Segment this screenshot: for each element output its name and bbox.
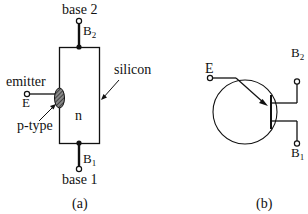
label-emitter: emitter (6, 74, 46, 89)
silicon-pointer (103, 80, 119, 98)
label-b1: B1 (291, 145, 304, 162)
label-b1: B1 (83, 151, 96, 168)
p-type-region (55, 88, 65, 108)
figure-b: E B2 B1 (b) (205, 45, 304, 212)
label-silicon: silicon (114, 62, 151, 77)
silicon-bar (60, 48, 100, 144)
label-b2: B2 (83, 23, 96, 40)
ujt-diagram: base 2 B2 silicon emitter E p-type n B1 … (0, 0, 308, 214)
terminal-b2 (294, 79, 299, 84)
figure-a: base 2 B2 silicon emitter E p-type n B1 … (6, 2, 151, 212)
label-b2: B2 (291, 45, 304, 62)
caption-a: (a) (72, 196, 88, 212)
caption-b: (b) (256, 196, 273, 212)
label-e: E (22, 95, 30, 110)
label-base-1: base 1 (62, 172, 97, 187)
label-p-type: p-type (17, 118, 53, 133)
terminal-b2 (76, 18, 81, 23)
label-n: n (75, 108, 82, 123)
label-base-2: base 2 (62, 2, 97, 17)
emitter-line (236, 78, 264, 103)
terminal-e (207, 75, 212, 80)
terminal-b1 (76, 166, 81, 171)
symbol-circle (213, 80, 277, 144)
label-e: E (205, 61, 214, 76)
